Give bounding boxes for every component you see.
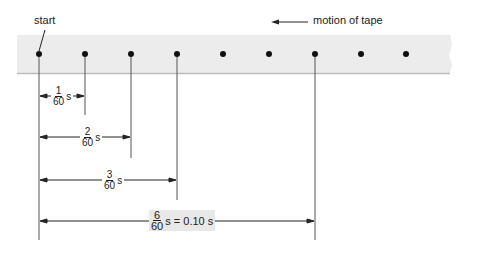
start-label: start [34,14,55,26]
dot [266,51,272,57]
motion-arrowhead [271,20,279,25]
motion-label: motion of tape [313,14,383,26]
dot [174,51,180,57]
dot [358,51,364,57]
interval-3-label: 360 s [102,170,124,191]
dot [36,51,42,57]
interval-2-label: 260 s [80,127,102,148]
dot [312,51,318,57]
dot [220,51,226,57]
interval-1-label: 160 s [51,86,73,107]
dot [128,51,134,57]
dot [403,51,409,57]
ticker-tape-diagram [0,0,479,262]
dot [82,51,88,57]
interval-6-label: 660 s = 0.10 s [149,210,215,231]
